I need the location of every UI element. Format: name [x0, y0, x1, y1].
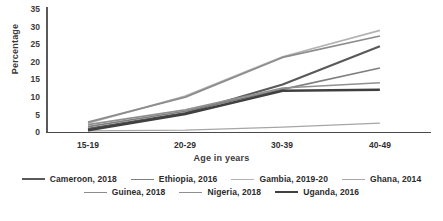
- legend-item[interactable]: Cameroon, 2018: [22, 174, 117, 184]
- series-line: [88, 46, 380, 129]
- series-line: [88, 123, 380, 131]
- line-chart: Percentage 35 30 25 20 15 10 5 0 15-19 2…: [0, 0, 443, 221]
- legend-item[interactable]: Nigeria, 2018: [179, 187, 261, 197]
- legend-label: Gambia, 2019-20: [259, 174, 328, 184]
- legend-item[interactable]: Guinea, 2018: [84, 187, 166, 197]
- legend-item[interactable]: Uganda, 2016: [275, 187, 359, 197]
- legend-item[interactable]: Ethiopia, 2016: [131, 174, 218, 184]
- legend-line-swatch: [179, 192, 202, 193]
- series-line: [88, 36, 380, 122]
- legend-label: Ghana, 2014: [370, 174, 421, 184]
- legend-item[interactable]: Ghana, 2014: [342, 174, 421, 184]
- chart-legend: Cameroon, 2018Ethiopia, 2016Gambia, 2019…: [0, 172, 443, 218]
- x-tick-15-19: 15-19: [58, 140, 118, 150]
- legend-line-swatch: [22, 178, 45, 180]
- legend-label: Guinea, 2018: [112, 187, 166, 197]
- legend-line-swatch: [342, 179, 365, 180]
- legend-line-swatch: [84, 192, 107, 193]
- legend-item[interactable]: Gambia, 2019-20: [231, 174, 328, 184]
- series-line: [88, 90, 380, 130]
- legend-line-swatch: [231, 179, 254, 180]
- legend-line-swatch: [275, 191, 298, 193]
- legend-row-1: Cameroon, 2018Ethiopia, 2016Gambia, 2019…: [15, 174, 428, 184]
- x-tick-40-49: 40-49: [350, 140, 410, 150]
- legend-label: Uganda, 2016: [303, 187, 359, 197]
- x-axis-title: Age in years: [0, 153, 443, 163]
- legend-line-swatch: [131, 179, 154, 180]
- legend-label: Nigeria, 2018: [207, 187, 261, 197]
- plot-area: Percentage 35 30 25 20 15 10 5 0 15-19 2…: [0, 0, 443, 170]
- x-tick-30-39: 30-39: [252, 140, 312, 150]
- legend-label: Cameroon, 2018: [50, 174, 117, 184]
- legend-row-2: Guinea, 2018Nigeria, 2018Uganda, 2016: [77, 187, 366, 197]
- legend-label: Ethiopia, 2016: [159, 174, 218, 184]
- x-tick-20-29: 20-29: [155, 140, 215, 150]
